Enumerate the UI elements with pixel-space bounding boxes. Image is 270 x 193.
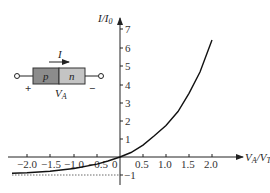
x-axis-label: VA/VT bbox=[245, 151, 270, 165]
diode: p n + − VA I bbox=[15, 48, 104, 101]
x-tick-0.5: 0.5 bbox=[135, 158, 149, 170]
y-tick-3: 3 bbox=[125, 97, 131, 109]
x-tick-minus1.5: −1.5 bbox=[41, 158, 61, 170]
plus-sign: + bbox=[25, 82, 31, 94]
iv-curve bbox=[12, 40, 212, 173]
x-tick-1.5: 1.5 bbox=[181, 158, 195, 170]
voltage-label: VA bbox=[55, 87, 67, 101]
p-label: p bbox=[42, 70, 49, 82]
y-tick-6: 6 bbox=[125, 42, 131, 54]
x-tick-1.0: 1.0 bbox=[158, 158, 172, 170]
cathode-terminal bbox=[99, 74, 104, 79]
y-tick-7: 7 bbox=[125, 23, 131, 35]
minus-sign: − bbox=[89, 82, 95, 94]
diode-iv-diagram: 7 6 5 4 3 2 1 −1 −2.0 −1.5 −1.0 −0.5 0 0… bbox=[0, 0, 270, 193]
y-tick-1: 1 bbox=[125, 133, 131, 145]
n-label: n bbox=[69, 70, 75, 82]
y-tick-minus1: −1 bbox=[124, 169, 136, 181]
y-axis-label: I/I0 bbox=[97, 12, 112, 26]
anode-terminal bbox=[15, 74, 20, 79]
y-tick-5: 5 bbox=[125, 60, 131, 72]
y-tick-4: 4 bbox=[125, 79, 131, 91]
x-tick-2.0: 2.0 bbox=[204, 158, 218, 170]
x-tick-minus2.0: −2.0 bbox=[17, 158, 37, 170]
y-tick-2: 2 bbox=[125, 115, 131, 127]
current-label: I bbox=[57, 48, 63, 60]
